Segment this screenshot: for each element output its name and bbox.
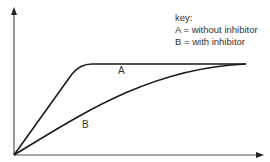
curve-a [14,64,246,155]
y-axis-arrow-icon [11,7,17,15]
legend-entry-b: B = with inhibitor [175,36,258,48]
legend-heading: key: [175,12,258,24]
x-axis [14,152,264,158]
curve-b-label: B [82,119,89,130]
x-axis-arrow-icon [256,152,264,158]
y-axis [11,7,17,155]
legend-key: key: A = without inhibitor B = with inhi… [175,12,258,48]
legend-entry-a: A = without inhibitor [175,24,258,36]
curve-a-label: A [118,65,125,76]
curve-b [14,64,246,155]
